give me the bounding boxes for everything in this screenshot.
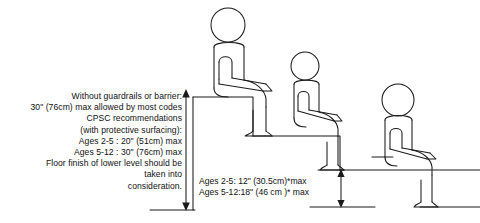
note-line: (with protective surfacing):	[0, 125, 182, 136]
note-line: CPSC recommendations	[0, 113, 182, 124]
seated-figure-bottom	[372, 84, 438, 207]
riser-height-dimension	[318, 169, 345, 208]
note-line: Floor finish of lower level should be	[0, 158, 182, 169]
fall-height-note: Without guardrails or barrier: 30" (76cm…	[0, 91, 182, 192]
note-line: 30" (76cm) max allowed by most codes	[0, 102, 182, 113]
seated-figure-top	[211, 8, 272, 136]
riser-height-note: Ages 2-5: 12" (30.5cm)*max Ages 5-12:18"…	[199, 176, 309, 198]
diagram-canvas: Without guardrails or barrier: 30" (76cm…	[0, 0, 480, 223]
seated-figure-middle	[291, 52, 344, 170]
fall-height-dimension	[182, 89, 190, 211]
riser-note-line: Ages 2-5: 12" (30.5cm)*max	[199, 176, 309, 187]
note-line: Ages 5-12 : 30" (76cm) max	[0, 147, 182, 158]
note-line: Without guardrails or barrier:	[0, 91, 182, 102]
riser-note-line: Ages 5-12:18" (46 cm )* max	[199, 187, 309, 198]
note-line: taken into	[0, 169, 182, 180]
note-line: consideration.	[0, 181, 182, 192]
note-line: Ages 2-5 : 20" (51cm) max	[0, 136, 182, 147]
